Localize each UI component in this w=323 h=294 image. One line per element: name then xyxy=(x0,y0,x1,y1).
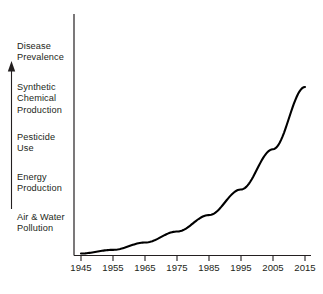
data-series-line xyxy=(81,87,305,254)
x-tick-label-1945: 1945 xyxy=(64,262,98,273)
plot-area xyxy=(0,0,323,294)
x-axis-tick-marks xyxy=(81,256,305,262)
x-tick-label-1985: 1985 xyxy=(192,262,226,273)
x-tick-label-2015: 2015 xyxy=(288,262,322,273)
x-tick-label-1995: 1995 xyxy=(224,262,258,273)
x-tick-label-1975: 1975 xyxy=(160,262,194,273)
x-tick-label-1955: 1955 xyxy=(96,262,130,273)
x-tick-label-1965: 1965 xyxy=(128,262,162,273)
x-tick-label-2005: 2005 xyxy=(256,262,290,273)
exponential-growth-chart: Disease Prevalence Synthetic Chemical Pr… xyxy=(0,0,323,294)
